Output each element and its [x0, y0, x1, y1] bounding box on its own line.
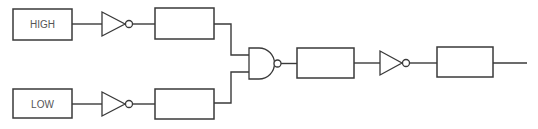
not-gate-bottom-icon	[102, 92, 133, 116]
post-nand-block-box	[297, 48, 354, 78]
bottom-input-path: LOW	[13, 72, 249, 119]
top-block-box	[155, 8, 214, 39]
output-block-box	[437, 47, 493, 77]
low-input-label: LOW	[31, 99, 54, 110]
not-gate-final-icon	[380, 51, 410, 75]
bottom-block-box	[155, 89, 214, 119]
wire-box-bottom-to-nand	[214, 72, 249, 103]
high-input-label: HIGH	[30, 19, 55, 30]
logic-diagram: HIGH LOW	[0, 0, 538, 129]
nand-gate-icon	[249, 48, 281, 79]
top-input-path: HIGH	[13, 8, 249, 55]
not-gate-top-icon	[102, 12, 133, 36]
wire-box-top-to-nand	[214, 24, 249, 55]
